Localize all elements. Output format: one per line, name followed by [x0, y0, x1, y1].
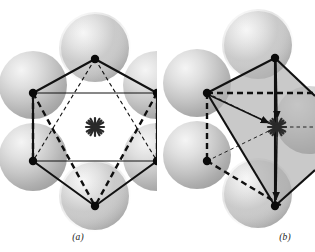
sphere-halo-bottom [59, 160, 131, 232]
vertex-bottom [91, 202, 99, 210]
arrow-from-top-vertex [276, 62, 277, 119]
arrow-to-bottom-vertex [276, 135, 277, 200]
vertex-lower-left [29, 157, 37, 165]
vertex-left [203, 89, 211, 97]
vertex-upper-left [29, 89, 37, 97]
vertex-top [91, 55, 99, 63]
panel-b-graphic [157, 0, 315, 252]
vertex-bottom [271, 202, 279, 210]
panel-b [157, 0, 315, 252]
sphere-lower-left [163, 121, 231, 189]
vertex-top [271, 54, 279, 62]
panel-a [0, 0, 157, 252]
panel-a-graphic [0, 0, 157, 252]
caption-panel-b: (b) [279, 232, 291, 242]
figure-container: (a) (b) [0, 0, 315, 252]
center-asterisk-a [86, 118, 104, 136]
vertex-bottom-left [203, 157, 211, 165]
center-asterisk-b [268, 118, 286, 136]
caption-panel-a: (a) [72, 232, 84, 242]
